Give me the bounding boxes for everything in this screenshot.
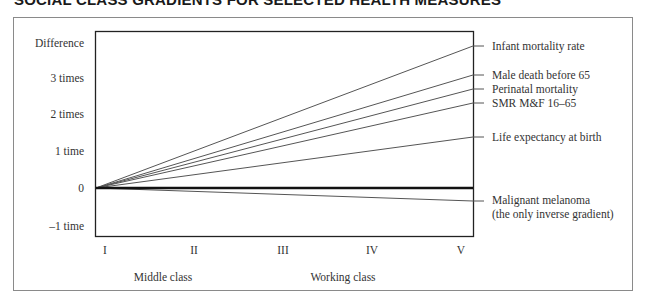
label-life-expectancy: Life expectancy at birth	[492, 131, 602, 144]
y-tick-2: 2 times	[50, 108, 84, 120]
chart-canvas: Difference 3 times 2 times 1 time 0 –1 t…	[0, 0, 647, 305]
label-smr: SMR M&F 16–65	[492, 97, 577, 109]
y-tick-3: 3 times	[50, 72, 84, 84]
group-label-working-class: Working class	[310, 271, 376, 284]
x-tick-III: III	[277, 244, 289, 256]
x-tick-II: II	[190, 244, 198, 256]
y-axis-title: Difference	[35, 37, 84, 49]
line-smr	[96, 103, 473, 188]
label-infant-mortality: Infant mortality rate	[492, 40, 585, 53]
label-male-death: Male death before 65	[492, 69, 590, 81]
plot-frame	[96, 32, 474, 237]
line-melanoma	[96, 188, 473, 201]
line-life-expectancy	[96, 137, 473, 188]
line-male-death	[96, 75, 473, 188]
line-perinatal	[96, 89, 473, 188]
label-perinatal: Perinatal mortality	[492, 83, 578, 96]
y-tick-minus-1: –1 time	[48, 220, 84, 232]
line-infant-mortality	[96, 46, 473, 188]
x-tick-IV: IV	[366, 244, 379, 256]
label-melanoma-note: (the only inverse gradient)	[492, 208, 614, 221]
x-tick-I: I	[103, 244, 107, 256]
x-tick-V: V	[457, 244, 466, 256]
group-label-middle-class: Middle class	[134, 271, 193, 283]
y-tick-1: 1 time	[55, 145, 84, 157]
label-melanoma: Malignant melanoma	[492, 194, 590, 207]
y-tick-0: 0	[78, 182, 84, 194]
